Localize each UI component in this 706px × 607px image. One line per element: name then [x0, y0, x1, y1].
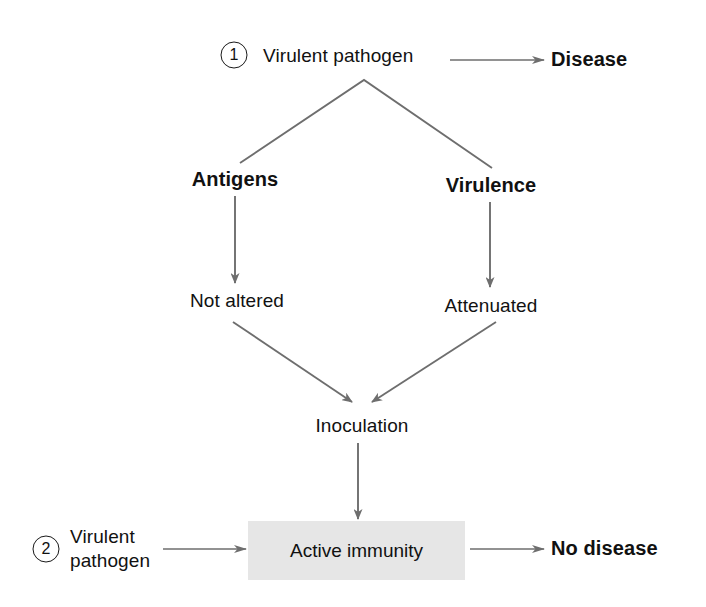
- arrow-not-altered-to-inoculation: [233, 322, 352, 402]
- node-attenuated: Attenuated: [445, 295, 538, 317]
- node-virulent-pathogen-top: Virulent pathogen: [263, 45, 413, 67]
- step-number-2: 2: [33, 536, 60, 563]
- node-disease: Disease: [551, 48, 627, 72]
- node-virulence: Virulence: [446, 174, 537, 198]
- node-virulent-pathogen-bottom: Virulent pathogen: [70, 525, 150, 573]
- node-antigens: Antigens: [192, 168, 278, 192]
- node-active-immunity-label: Active immunity: [290, 540, 423, 562]
- arrow-attenuated-to-inoculation: [372, 322, 496, 402]
- node-no-disease: No disease: [551, 537, 658, 561]
- node-virulent-pathogen-bottom-line2: pathogen: [70, 549, 150, 573]
- node-active-immunity-box: Active immunity: [248, 521, 465, 580]
- connector-split-antigens-virulence: [240, 80, 492, 168]
- node-virulent-pathogen-bottom-line1: Virulent: [70, 525, 150, 549]
- node-not-altered: Not altered: [190, 290, 284, 312]
- step-number-1: 1: [221, 42, 248, 69]
- node-inoculation: Inoculation: [315, 415, 408, 437]
- diagram-connectors-layer: [0, 0, 706, 607]
